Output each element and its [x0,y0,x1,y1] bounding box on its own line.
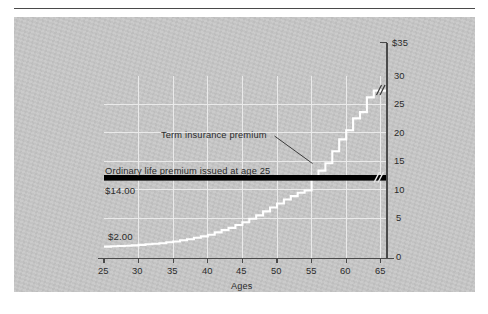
term-insurance-annotation-label: Term insurance premium [161,130,267,140]
x-tick-label-50: 50 [271,266,282,276]
y-tick-label-0: 0 [396,252,401,262]
x-tick-label-30: 30 [132,266,143,276]
x-tick-label-35: 35 [167,266,178,276]
y-tick-label-25: 25 [394,99,405,109]
x-tick-label-65: 65 [375,266,386,276]
chart-panel-background [14,17,475,292]
top-divider-rule [14,8,475,9]
x-tick-label-55: 55 [306,266,317,276]
x-tick-label-25: 25 [98,266,109,276]
chart-figure: Term insurance premium Ordinary life pre… [0,0,488,314]
x-axis-title: Ages [231,281,253,291]
y-tick-label-10: 10 [394,185,405,195]
y-tick-label-35: $35 [392,38,408,48]
ordinary-life-value-label: $14.00 [105,186,135,196]
x-tick-label-40: 40 [202,266,213,276]
x-tick-label-60: 60 [340,266,351,276]
y-tick-label-5: 5 [396,213,401,223]
ordinary-life-annotation-label: Ordinary life premium issued at age 25 [105,166,270,176]
y-tick-label-15: 15 [394,156,405,166]
term-start-value-label: $2.00 [108,232,133,242]
x-tick-label-45: 45 [236,266,247,276]
y-tick-label-30: 30 [394,71,405,81]
y-tick-label-20: 20 [394,128,405,138]
